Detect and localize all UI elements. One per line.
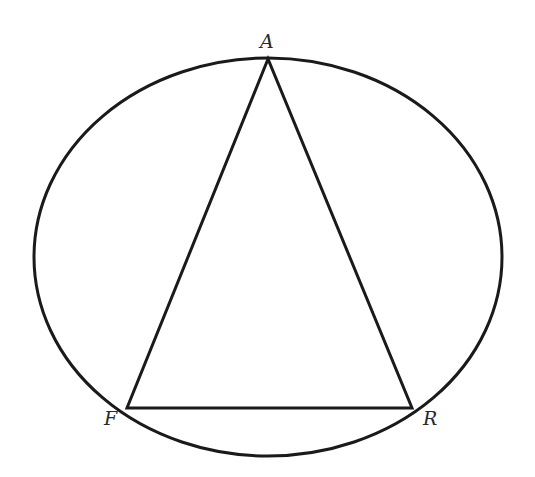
vertex-label-f: F xyxy=(103,407,118,429)
diagram-canvas: A F R xyxy=(0,0,535,477)
circumscribing-ellipse xyxy=(34,58,502,456)
vertex-label-r: R xyxy=(422,407,437,429)
vertex-label-a: A xyxy=(258,30,274,52)
triangle-AFR xyxy=(127,59,412,408)
